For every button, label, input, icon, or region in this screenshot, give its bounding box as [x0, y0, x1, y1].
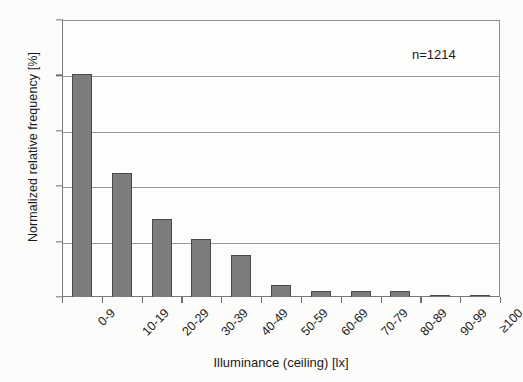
bar-slot: [341, 20, 381, 297]
x-tick-label-5059: 50-59: [298, 306, 331, 339]
x-tick-label-100: ≥100: [496, 306, 523, 335]
bar: [191, 239, 211, 297]
x-tick-label-7079: 70-79: [378, 306, 411, 339]
x-tick-mark: [181, 297, 182, 303]
x-tick-label-09: 0-9: [95, 306, 118, 329]
x-tick-label-8089: 80-89: [418, 306, 451, 339]
bar-slot: [142, 20, 182, 297]
x-axis-title: Illuminance (ceiling) [lx]: [62, 355, 500, 370]
bar-slot: [261, 20, 301, 297]
x-tick-mark: [341, 297, 342, 303]
x-tick-label-1019: 10-19: [139, 306, 172, 339]
x-tick-mark: [381, 297, 382, 303]
bar-slot: [301, 20, 341, 297]
bar-slot: [102, 20, 142, 297]
bar: [152, 219, 172, 297]
x-tick-mark: [460, 297, 461, 303]
bar: [271, 285, 291, 297]
y-axis-title: Normalized relative frequency [%]: [26, 22, 40, 272]
x-tick-mark: [301, 297, 302, 303]
bar: [231, 255, 251, 297]
x-tick-label-9099: 90-99: [458, 306, 491, 339]
bar: [311, 291, 331, 297]
bar-slot: [181, 20, 221, 297]
x-tick-label-6069: 60-69: [338, 306, 371, 339]
bar: [430, 295, 450, 297]
bar-slot: [221, 20, 261, 297]
x-tick-label-2029: 20-29: [179, 306, 212, 339]
bar-slot: [460, 20, 500, 297]
x-tick-label-3039: 30-39: [219, 306, 252, 339]
bar: [470, 295, 490, 297]
x-tick-label-4049: 40-49: [259, 306, 292, 339]
x-tick-mark: [142, 297, 143, 303]
x-tick-mark: [221, 297, 222, 303]
chart-figure: Normalized relative frequency [%] 010203…: [0, 0, 523, 382]
bar-slot: [62, 20, 102, 297]
bar: [112, 173, 132, 297]
sample-size-annotation: n=1214: [412, 47, 456, 62]
x-tick-mark: [420, 297, 421, 303]
x-tick-mark: [102, 297, 103, 303]
bar: [351, 291, 371, 297]
bar: [72, 74, 92, 297]
x-tick-mark: [500, 297, 501, 303]
x-tick-mark: [261, 297, 262, 303]
bar: [390, 291, 410, 297]
x-tick-mark: [62, 297, 63, 303]
